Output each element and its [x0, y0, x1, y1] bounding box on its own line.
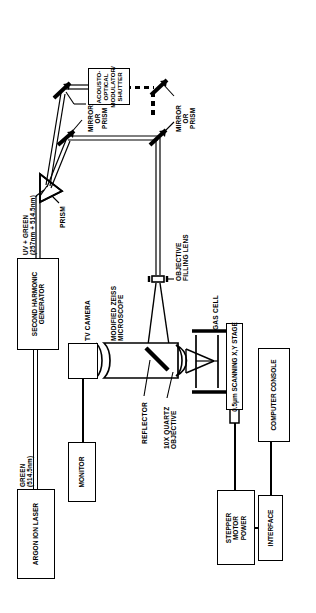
tv-camera-label: TV CAMERA	[84, 300, 91, 341]
modified-zeiss-microscope-label: MODIFIED ZEISS MICROSCOPE	[110, 286, 125, 341]
beam-focus-cone	[186, 349, 214, 373]
second-harmonic-generator-label: SECOND HARMONIC GENERATOR	[31, 272, 46, 336]
mirror-or-prism-3-shape	[150, 130, 166, 145]
stepper-motor-power-box: STEPPER MOTOR POWER	[217, 490, 255, 565]
scanning-xy-stage-label: 0.5μm SCANNING X,Y STAGE	[231, 322, 238, 412]
beam-dispersed	[46, 93, 70, 188]
objective-filling-lens-label: OBJECTIVE FILLING LENS	[175, 234, 190, 281]
quartz-objective-label: 10X QUARTZ OBJECTIVE	[163, 407, 178, 449]
stage-stepper-line	[234, 423, 236, 490]
mirror-or-prism-label-2: MIRROR OR PRISM	[175, 105, 197, 132]
mirror-or-prism-2-shape	[58, 131, 74, 145]
beam-uv-green	[36, 186, 47, 258]
modified-zeiss-microscope-shape	[104, 343, 178, 378]
beam-cone-lens	[148, 283, 169, 345]
optical-system-diagram: ACOUSTO- OPTICAL MODULATOR/ SHUTTER SECO…	[0, 0, 316, 613]
uv-green-beam-label: UV + GREEN (257nm + 514.5nm)	[22, 195, 36, 255]
argon-ion-laser-label: ARGON ION LASER	[32, 503, 40, 565]
reflector-shape	[146, 348, 168, 370]
console-interface-line	[270, 442, 272, 495]
green-beam-line-a	[33, 350, 34, 489]
computer-console-label: COMPUTER CONSOLE	[270, 359, 277, 430]
acousto-optical-modulator-box: ACOUSTO- OPTICAL MODULATOR/ SHUTTER	[88, 68, 130, 105]
dashed-beam-vertical	[151, 92, 155, 118]
prism-shape	[40, 174, 62, 202]
scanning-xy-stage-box: 0.5μm SCANNING X,Y STAGE	[226, 323, 243, 410]
prism-label: PRISM	[59, 206, 66, 228]
beam-mirror2-mirror3	[68, 136, 158, 140]
green-beam-label: GREEN (514.5nm)	[19, 456, 33, 487]
computer-console-box: COMPUTER CONSOLE	[258, 348, 290, 442]
camera-monitor-line	[82, 379, 84, 442]
quartz-objective-shape	[176, 345, 187, 376]
dashed-beam-horizontal	[126, 86, 154, 90]
second-harmonic-generator-box: SECOND HARMONIC GENERATOR	[17, 258, 59, 350]
beam-mirror3-down	[156, 138, 160, 275]
reflector-label: REFLECTOR	[141, 402, 148, 444]
green-beam-line-b	[37, 350, 38, 489]
tv-camera-box	[68, 343, 98, 379]
mirror-or-prism-1-shape	[54, 83, 70, 98]
stepper-interface-line	[255, 527, 259, 529]
monitor-box: MONITOR	[68, 442, 96, 502]
gas-cell-label: GAS CELL	[212, 295, 219, 330]
acousto-optical-modulator-label: ACOUSTO- OPTICAL MODULATOR/ SHUTTER	[95, 66, 124, 107]
gas-cell-shape	[192, 331, 226, 392]
interface-label: INTERFACE	[267, 510, 274, 547]
mirror-or-prism-label-1: MIRROR OR PRISM	[87, 105, 109, 132]
argon-ion-laser-box: ARGON ION LASER	[17, 489, 55, 579]
beam-to-aom	[66, 85, 88, 89]
stepper-motor-power-label: STEPPER MOTOR POWER	[225, 512, 247, 542]
interface-box: INTERFACE	[258, 495, 283, 561]
monitor-label: MONITOR	[78, 456, 86, 487]
objective-filling-lens-shape	[149, 276, 167, 282]
